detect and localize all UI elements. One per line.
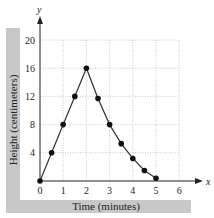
chart-plot: xy012345648121620 xyxy=(0,0,214,218)
x-tick-label: 6 xyxy=(177,185,182,196)
data-point xyxy=(84,65,90,71)
x-axis-symbol: x xyxy=(205,176,211,187)
y-tick-label: 8 xyxy=(30,119,35,130)
data-point xyxy=(72,94,78,100)
data-point xyxy=(60,122,66,128)
data-point xyxy=(142,168,148,174)
y-tick-label: 12 xyxy=(25,91,35,102)
data-point xyxy=(118,141,124,147)
y-axis-symbol: y xyxy=(36,4,42,15)
data-point xyxy=(49,150,55,156)
y-tick-label: 4 xyxy=(30,147,35,158)
x-tick-label: 1 xyxy=(61,185,66,196)
x-tick-label: 0 xyxy=(38,185,43,196)
data-point xyxy=(130,156,136,162)
data-point xyxy=(95,96,101,102)
y-axis-arrow-icon xyxy=(37,16,43,24)
data-point xyxy=(153,175,159,181)
y-tick-label: 16 xyxy=(25,63,35,74)
x-axis-arrow-icon xyxy=(195,178,203,184)
x-tick-label: 3 xyxy=(107,185,112,196)
y-tick-label: 20 xyxy=(25,35,35,46)
x-tick-label: 4 xyxy=(130,185,135,196)
data-point xyxy=(37,178,43,184)
data-point xyxy=(107,122,113,128)
x-tick-label: 5 xyxy=(154,185,159,196)
x-tick-label: 2 xyxy=(84,185,89,196)
